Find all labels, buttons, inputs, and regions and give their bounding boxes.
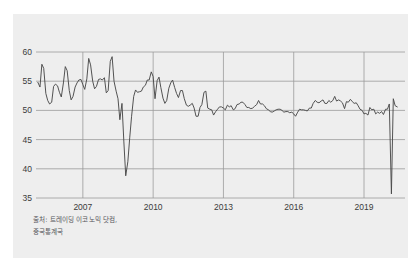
source-caption: 출처: 트레이딩 이코노믹 닷컴, 중국통계국	[33, 215, 283, 238]
x-tick-label: 2019	[355, 202, 374, 212]
y-tick-label: 55	[23, 76, 33, 86]
y-tick-label: 45	[23, 135, 33, 145]
y-tick-label: 35	[23, 193, 33, 203]
x-tick-label: 2007	[73, 202, 92, 212]
y-tick-label: 50	[23, 105, 33, 115]
x-tick-label: 2013	[214, 202, 233, 212]
y-tick-label: 60	[23, 47, 33, 57]
y-axis-tick-labels: 605550454035	[23, 47, 33, 203]
x-tick-label: 2016	[284, 202, 303, 212]
y-tick-label: 40	[23, 164, 33, 174]
x-axis-tick-labels: 20072010201320162019	[73, 202, 373, 212]
source-line-2: 중국통계국	[33, 227, 283, 239]
source-line-1: 출처: 트레이딩 이코노믹 닷컴,	[33, 215, 283, 227]
x-tick-label: 2010	[144, 202, 163, 212]
data-series-lines	[38, 57, 397, 194]
data-series-line	[38, 57, 397, 194]
chart-figure: 605550454035 20072010201320162019 출처: 트레…	[0, 0, 419, 270]
